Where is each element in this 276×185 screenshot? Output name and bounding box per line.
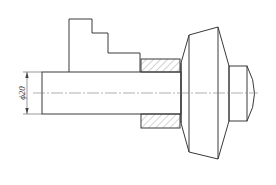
- arrow-up-icon: [25, 72, 28, 78]
- arrow-down-icon: [25, 108, 28, 114]
- spindle-nose: [229, 66, 247, 121]
- chuck-jaw: [69, 19, 140, 72]
- sleeve-section-upper: [141, 59, 180, 72]
- dimension-label: ϕ20: [17, 86, 27, 100]
- sleeve-section-lower: [141, 114, 180, 128]
- technical-drawing: ϕ20: [0, 0, 276, 185]
- spindle-dome: [247, 66, 255, 121]
